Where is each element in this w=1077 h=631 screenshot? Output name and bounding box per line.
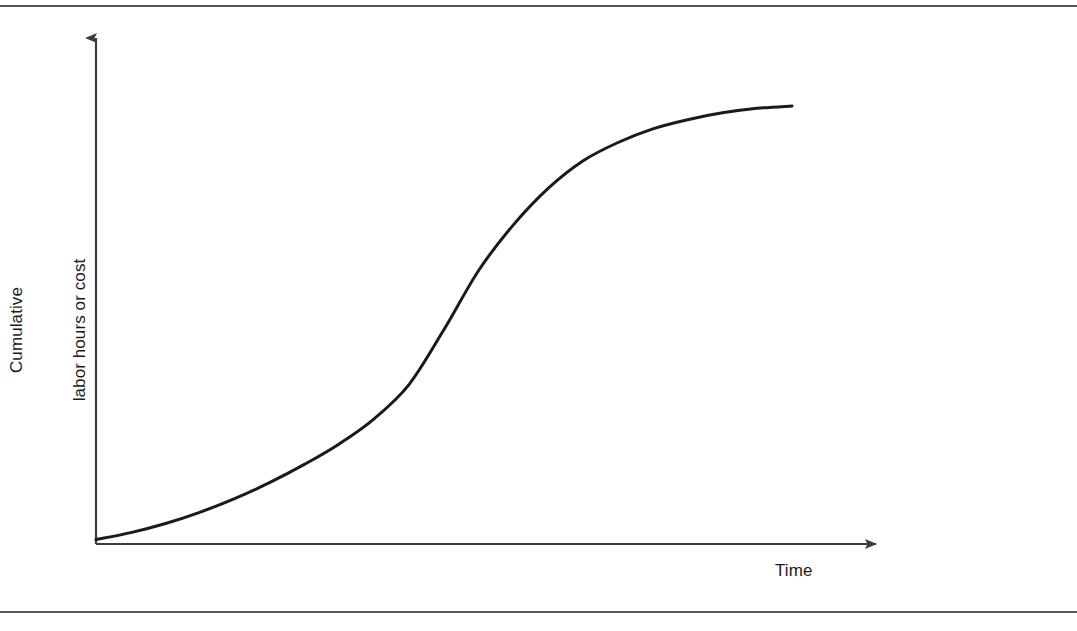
x-axis-label: Time: [775, 560, 813, 581]
y-axis-label-line1: Cumulative: [6, 230, 27, 430]
y-axis-label-line2: labor hours or cost: [69, 230, 90, 430]
chart-plot-area: [0, 0, 1077, 631]
figure-container: Cumulative labor hours or cost Time: [0, 0, 1077, 631]
s-curve-line: [96, 106, 792, 539]
y-axis-label: Cumulative labor hours or cost: [0, 230, 132, 430]
bottom-divider-rule: [0, 611, 1077, 613]
